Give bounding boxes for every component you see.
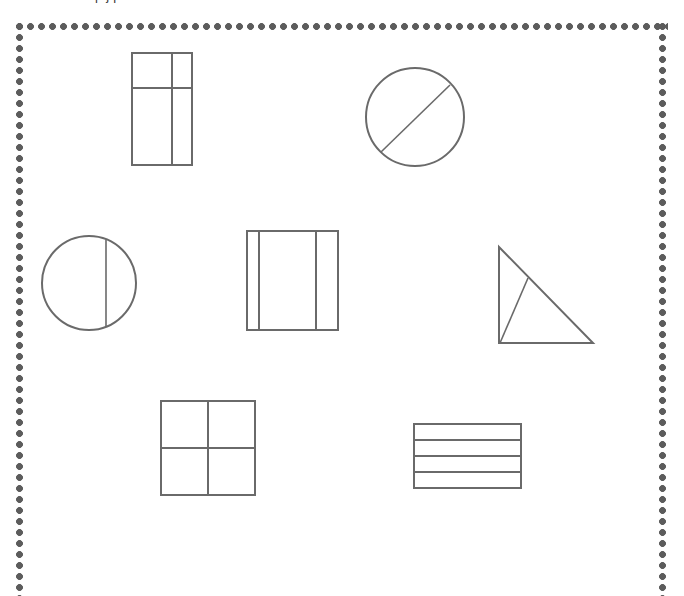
cut-off-header-text: p j p — [0, 0, 684, 14]
circle-outline — [42, 236, 136, 330]
frame-top-edge — [14, 21, 668, 32]
circle-diagonal-divider — [381, 85, 450, 152]
shape-square-with-two-vertical-lines — [245, 229, 341, 333]
shape-right-triangle-with-interior-line — [494, 242, 598, 350]
shape-circle-with-diagonal-chord — [364, 66, 466, 168]
worksheet-page: p j p — [0, 0, 684, 596]
rectangle-outline — [132, 53, 192, 165]
shape-circle-with-vertical-chord — [40, 234, 140, 334]
shape-rectangle-with-cross-lines — [130, 51, 194, 167]
triangle-interior-divider — [500, 278, 528, 343]
square-outline — [247, 231, 338, 330]
triangle-outline — [499, 247, 593, 343]
shape-rectangle-with-horizontal-bands — [412, 422, 524, 491]
frame-right-edge — [657, 21, 668, 596]
frame-left-edge — [14, 21, 25, 596]
header-text-remnant: p j p — [95, 0, 121, 3]
shape-square-quartered — [159, 399, 258, 498]
